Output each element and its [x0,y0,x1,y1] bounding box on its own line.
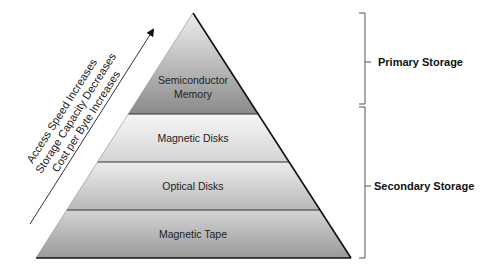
primary-storage-label: Primary Storage [378,56,463,68]
memory-hierarchy-diagram: Semiconductor Memory Magnetic Disks Opti… [0,0,490,275]
secondary-storage-label: Secondary Storage [374,180,474,192]
secondary-bracket [359,107,365,258]
level-label-semiconductor: Semiconductor [158,74,229,86]
level-label-optical-disks: Optical Disks [162,180,223,192]
storage-brackets [359,13,371,258]
primary-bracket [359,13,365,104]
level-label-magnetic-disks: Magnetic Disks [157,132,228,144]
level-label-memory: Memory [174,88,213,100]
level-label-magnetic-tape: Magnetic Tape [159,228,227,240]
